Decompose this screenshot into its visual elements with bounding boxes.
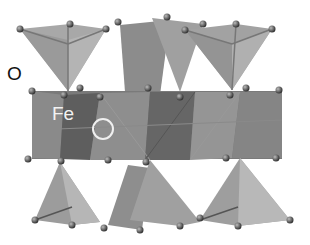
top-tetrahedra [20,18,272,95]
crystal-structure-diagram [0,0,310,245]
bottom-tetrahedra [35,158,290,230]
iron-label: Fe [52,104,74,123]
octahedral-layer [32,91,282,160]
oxygen-label: O [7,64,22,83]
vacancy-site-marker [92,118,114,140]
